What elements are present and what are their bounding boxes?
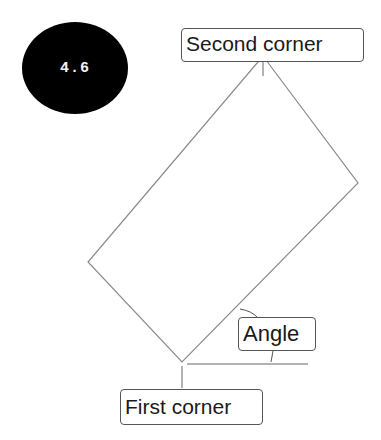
rectangle-diagram xyxy=(0,0,381,440)
angle-label: Angle xyxy=(238,317,316,351)
angle-leader xyxy=(271,351,273,362)
rotated-rectangle xyxy=(88,56,358,362)
first-corner-label: First corner xyxy=(120,389,263,425)
second-corner-label: Second corner xyxy=(181,28,364,62)
